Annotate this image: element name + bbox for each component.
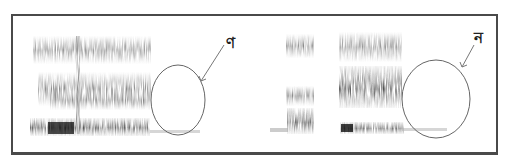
annotation-2 <box>402 45 474 138</box>
circle-gap-2 <box>402 60 470 138</box>
arrow-1 <box>201 45 224 81</box>
spectrogram-segment-middle <box>286 34 314 134</box>
spectrogram-segment-right <box>339 32 404 134</box>
spectrogram-segment-left <box>30 36 151 136</box>
circle-gap-1 <box>151 65 205 135</box>
spectrogram-figure <box>0 0 514 165</box>
arrow-2 <box>462 45 474 67</box>
annotation-label-2: ন <box>474 31 483 46</box>
dark-burst <box>48 122 74 134</box>
annotation-1 <box>151 45 224 135</box>
annotation-label-1: ণ <box>226 36 235 51</box>
